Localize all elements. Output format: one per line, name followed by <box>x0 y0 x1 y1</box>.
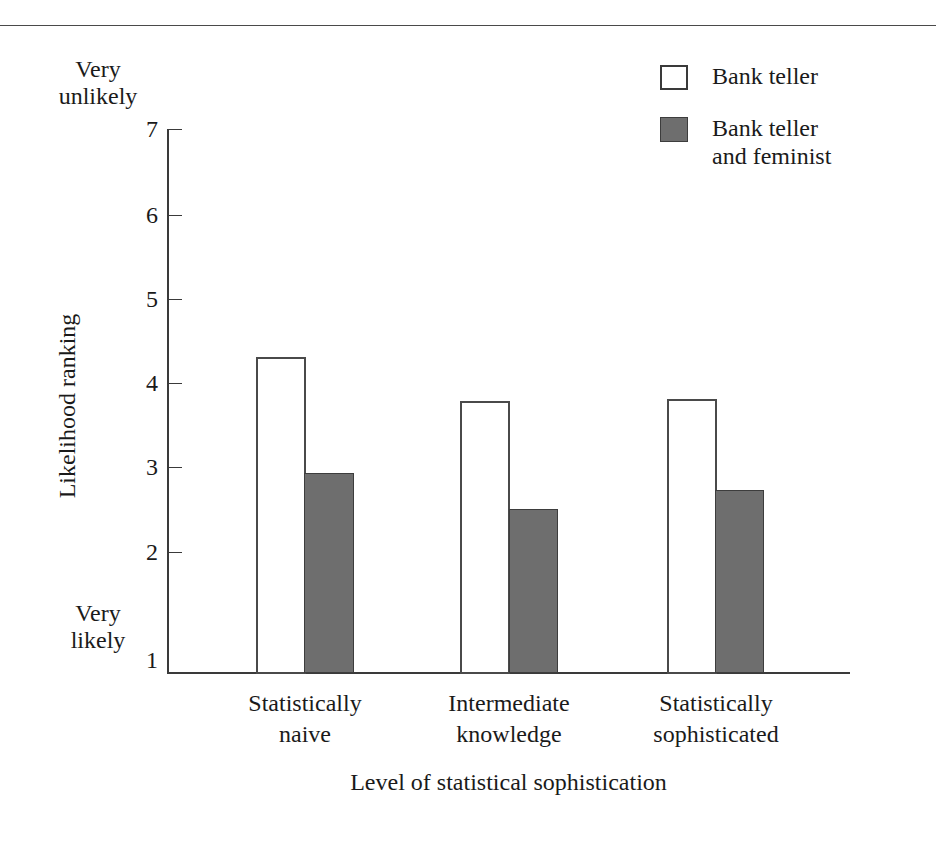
y-tick-5 <box>169 299 182 300</box>
legend-item-bank-teller-and-feminist: Bank teller and feminist <box>660 114 831 170</box>
y-axis-endpoint-high-label: Very unlikely <box>38 56 158 110</box>
y-tick-3 <box>169 467 182 468</box>
legend-item-bank-teller: Bank teller <box>660 62 831 90</box>
y-tick-6 <box>169 215 182 216</box>
open-square-icon <box>660 65 688 90</box>
y-tick-label-3: 3 <box>128 455 158 479</box>
y-axis-endpoint-low-label: Very likely <box>38 600 158 654</box>
legend-label-bank-teller: Bank teller <box>712 62 818 90</box>
x-category-label-statistically-sophisticated: Statistically sophisticated <box>601 688 831 750</box>
y-axis-title: Likelihood ranking <box>54 276 80 536</box>
y-tick-label-2: 2 <box>128 540 158 564</box>
y-tick-label-7: 7 <box>128 117 158 141</box>
x-category-label-statistically-naive: Statistically naive <box>190 688 420 750</box>
y-tick-7 <box>169 129 182 130</box>
y-tick-label-6: 6 <box>128 203 158 227</box>
bar-bank-teller-statistically-sophisticated <box>667 399 717 674</box>
y-tick-2 <box>169 552 182 553</box>
chart-legend: Bank teller Bank teller and feminist <box>660 62 831 194</box>
x-category-label-intermediate-knowledge: Intermediate knowledge <box>394 688 624 750</box>
legend-label-bank-teller-and-feminist: Bank teller and feminist <box>712 114 831 170</box>
bar-chart-figure: 7 6 5 4 3 2 1 Very unlikely Very likely … <box>0 0 936 841</box>
y-tick-label-5: 5 <box>128 287 158 311</box>
bar-bank-teller-and-feminist-statistically-sophisticated <box>715 490 764 673</box>
bar-bank-teller-and-feminist-statistically-naive <box>304 473 354 673</box>
y-axis-line <box>167 129 169 674</box>
bar-bank-teller-intermediate-knowledge <box>460 401 510 674</box>
y-tick-label-4: 4 <box>128 371 158 395</box>
bar-bank-teller-statistically-naive <box>256 357 306 674</box>
filled-square-icon <box>660 117 688 142</box>
bar-bank-teller-and-feminist-intermediate-knowledge <box>509 509 558 673</box>
x-axis-title: Level of statistical sophistication <box>167 769 850 795</box>
y-tick-4 <box>169 383 182 384</box>
